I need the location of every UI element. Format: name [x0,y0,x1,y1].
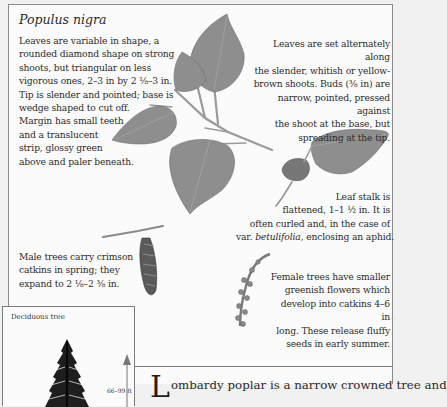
leaf-shape-annotation: Leaves are variable in shape, a rounded … [19,34,189,168]
male-catkin-annotation: Male trees carry crimson catkins in spri… [19,250,139,290]
annotation-line: flattened, 1–1 ½ in. It is [236,203,390,216]
annotation-line: brown shoots. Buds (⅜ in) are [248,77,390,90]
annotation-line: Male trees carry crimson [19,250,139,263]
height-range-label: 66–99 ft [107,387,132,394]
annotation-line: Leaf stalk is [236,190,390,203]
section-divider [135,366,393,367]
annotation-line: Tip is slender and pointed; base is [19,88,189,101]
annotation-line: above and paler beneath. [19,155,189,168]
annotation-line: Leaves are set alternately along [248,37,390,64]
annotation-line: greenish flowers which [270,283,390,296]
annotation-line: Margin has small teeth [19,114,189,127]
female-catkin-annotation: Female trees have smaller greenish flowe… [270,270,390,350]
annotation-line: vigorous ones, 2–3 in by 2 ⅛–3 in. [19,74,189,87]
annotation-line: seeds in early summer. [270,337,390,350]
annotation-line: long. These release fluffy [270,324,390,337]
annotation-line: expand to 2 ⅛–2 ⅜ in. [19,277,139,290]
annotation-line: Leaves are variable in shape, a [19,34,189,47]
annotation-line: the slender, whitish or yellow- [248,64,390,77]
annotation-text: enclosing an aphid. [303,231,394,242]
annotation-line: wedge shaped to cut off. [19,101,189,114]
tree-profile-box: Deciduous tree 66–99 ft [2,306,135,406]
annotation-line: strip, glossy green [19,141,189,154]
species-title: Populus nigra [19,12,106,27]
leaf-arrangement-annotation: Leaves are set alternately along the sle… [248,37,390,144]
annotation-line: narrow, pointed, pressed against [248,91,390,118]
annotation-line: often curled and, in the case of [236,217,390,230]
annotation-text: var. [236,231,255,242]
annotation-line: and a translucent [19,128,189,141]
annotation-line: var. betulifolia, enclosing an aphid. [236,230,390,243]
annotation-line: spreading at the tip. [248,131,390,144]
annotation-line: shoots, but triangular on less [19,61,189,74]
annotation-line: the shoot at the base, but [248,117,390,130]
drop-cap: L [150,372,170,402]
annotation-line: catkins in spring; they [19,263,139,276]
annotation-line: Female trees have smaller [270,270,390,283]
body-paragraph-first-line: ombardy poplar is a narrow crowned tree … [171,378,447,392]
leaf-stalk-annotation: Leaf stalk is flattened, 1–1 ½ in. It is… [236,190,390,244]
annotation-line: develop into catkins 4–6 in [270,297,390,324]
variety-name: betulifolia, [255,231,303,242]
annotation-line: rounded diamond shape on strong [19,47,189,60]
female-catkin-icon [236,254,271,327]
